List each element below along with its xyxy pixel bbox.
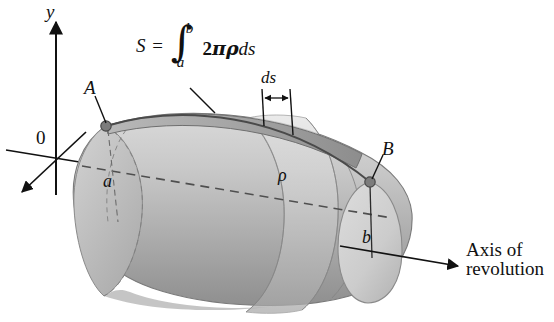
- point-b-label: B: [382, 139, 394, 158]
- formula-coefficient: 2: [202, 38, 212, 59]
- axis-of-revolution-line1: Axis of: [466, 239, 522, 260]
- formula-lhs: S: [136, 35, 146, 56]
- integral-symbol-group: ∫ b a: [171, 28, 193, 68]
- point-b-marker: [365, 177, 375, 187]
- leader-formula-to-surface: [190, 88, 215, 113]
- origin-label: 0: [36, 128, 46, 147]
- radius-b-label: b: [362, 228, 371, 246]
- integral-upper-limit: b: [186, 20, 194, 37]
- axis-of-revolution-label: Axis of revolution: [466, 240, 544, 279]
- radius-a-label: a: [103, 172, 112, 190]
- rho-label: ρ: [278, 166, 287, 184]
- axis-of-revolution-line2: revolution: [466, 259, 544, 278]
- formula-integrand: 2πρds: [202, 37, 255, 60]
- surface-of-revolution-figure: y 0 A B a b ρ ds Axis of revolution S = …: [0, 0, 554, 322]
- point-a-label: A: [84, 78, 96, 97]
- integral-lower-limit: a: [177, 54, 185, 71]
- formula-differential: ds: [239, 38, 256, 59]
- y-axis-label: y: [46, 2, 54, 21]
- leader-point-a: [95, 96, 106, 123]
- formula-rho: ρ: [226, 37, 239, 59]
- solid-of-revolution: [73, 113, 412, 313]
- formula-equals: =: [150, 35, 165, 56]
- ds-label: ds: [261, 69, 276, 86]
- formula-pi: π: [212, 37, 226, 59]
- surface-area-formula: S = ∫ b a 2πρds: [136, 28, 255, 68]
